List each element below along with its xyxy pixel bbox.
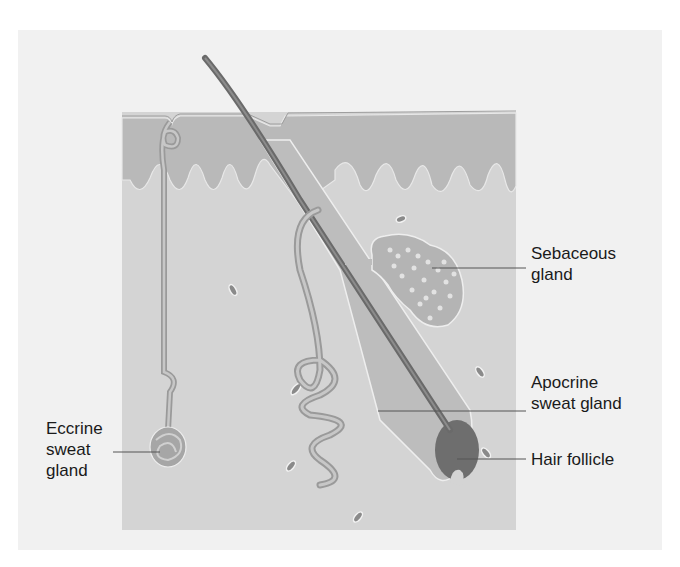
label-apocrine-sweat-gland: Apocrine sweat gland — [531, 372, 622, 414]
label-sebaceous-gland: Sebaceous gland — [531, 243, 616, 285]
label-hair-follicle: Hair follicle — [531, 449, 614, 470]
label-eccrine-sweat-gland: Eccrine sweat gland — [46, 418, 103, 481]
